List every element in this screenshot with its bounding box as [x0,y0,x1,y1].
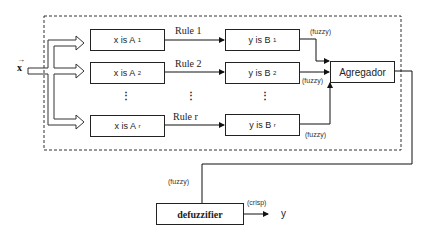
aggregator-box: Agregador [330,61,395,83]
vector-arrow-icon: → [17,55,25,64]
consequent-box-r: y is B r [225,114,300,136]
ellipsis-consequents: ⋮ [260,94,266,98]
antecedent-box-1: x is A 1 [90,29,165,51]
rule-label-r: Rule r [173,111,198,122]
rule-label-1: Rule 1 [175,25,201,36]
antecedent-box-r: x is A r [90,115,165,137]
defuzzifier-box: defuzzifier [156,203,244,225]
rule-label-2: Rule 2 [175,58,201,69]
fuzzy-tag-r: (fuzzy) [305,131,326,138]
fuzzy-tag-2: (fuzzy) [302,77,323,84]
antecedent-box-2: x is A 2 [90,62,165,84]
input-vector-label: → x [17,62,22,73]
fuzzy-tag-aggregated: (fuzzy) [168,178,189,185]
consequent-box-2: y is B 2 [225,62,300,84]
ellipsis-antecedents: ⋮ [121,94,127,98]
ellipsis-rules: ⋮ [186,94,192,98]
crisp-tag: (crisp) [247,199,266,206]
output-y-label: y [281,208,286,219]
fuzzy-tag-1: (fuzzy) [310,28,331,35]
input-bus [28,36,84,129]
consequent-box-1: y is B 1 [225,29,300,51]
